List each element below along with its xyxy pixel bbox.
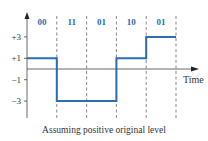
y-tick-label: −1: [11, 75, 21, 85]
x-axis-arrow-icon: [191, 67, 199, 72]
caption: Assuming positive original level: [42, 125, 166, 135]
y-tick-label: +1: [11, 53, 21, 63]
signal-diagram: +3+1−1−3 0011011001 Time Assuming positi…: [0, 0, 208, 141]
x-axis-label: Time: [183, 74, 204, 85]
bit-pair-label: 11: [67, 17, 76, 27]
y-axis-arrow-icon: [25, 12, 30, 19]
bit-pair-label: 01: [157, 17, 167, 27]
bit-pair-label: 10: [127, 17, 137, 27]
bit-pair-label: 00: [37, 17, 47, 27]
y-tick-label: +3: [11, 32, 21, 42]
bit-pair-label: 01: [97, 17, 107, 27]
y-tick-label: −3: [11, 96, 21, 106]
